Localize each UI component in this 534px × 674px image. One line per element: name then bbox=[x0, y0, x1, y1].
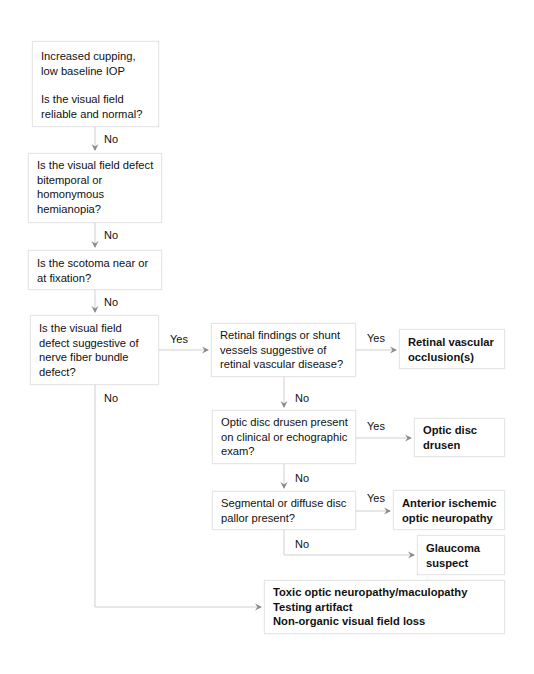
out-aion-line-1: Anterior ischemic bbox=[402, 496, 496, 511]
start-question-line-1: Is the visual field bbox=[41, 92, 150, 107]
q-hemianopia-line-1: Is the visual field defect bbox=[37, 158, 153, 173]
node-out-retinal-occlusion: Retinal vascular occlusion(s) bbox=[399, 329, 505, 369]
node-q-hemianopia: Is the visual field defect bitemporal or… bbox=[28, 153, 162, 223]
q-drusen-line-2: on clinical or echographic bbox=[221, 430, 347, 445]
q-nerve-fiber-line-4: defect? bbox=[39, 365, 150, 380]
node-start: Increased cupping, low baseline IOP Is t… bbox=[32, 41, 159, 127]
node-q-retinal: Retinal findings or shunt vessels sugges… bbox=[211, 323, 356, 377]
edge-label-hemianopia-scotoma: No bbox=[104, 229, 118, 241]
q-drusen-line-3: exam? bbox=[221, 444, 347, 459]
edge-label-scotoma-nervefiber: No bbox=[104, 296, 118, 308]
node-out-disc-drusen: Optic disc drusen bbox=[414, 418, 505, 457]
out-other-line-2: Testing artifact bbox=[273, 600, 496, 615]
out-other-line-1: Toxic optic neuropathy/maculopathy bbox=[273, 585, 496, 600]
q-hemianopia-line-2: bitemporal or bbox=[37, 173, 153, 188]
q-retinal-line-2: vessels suggestive of bbox=[220, 343, 347, 358]
edge-label-pallor-glaucoma: No bbox=[295, 538, 309, 550]
edge-label-drusen-outdrusen: Yes bbox=[367, 420, 385, 432]
edge-label-retinal-drusen: No bbox=[295, 392, 309, 404]
node-q-drusen: Optic disc drusen present on clinical or… bbox=[212, 410, 356, 464]
q-nerve-fiber-line-1: Is the visual field bbox=[39, 321, 150, 336]
q-scotoma-line-2: at fixation? bbox=[37, 271, 153, 286]
node-q-scotoma: Is the scotoma near or at fixation? bbox=[28, 250, 162, 290]
out-aion-line-2: optic neuropathy bbox=[402, 511, 496, 526]
q-pallor-line-2: pallor present? bbox=[221, 511, 347, 526]
q-retinal-line-3: retinal vascular disease? bbox=[220, 357, 347, 372]
q-nerve-fiber-line-2: defect suggestive of bbox=[39, 336, 150, 351]
node-q-nerve-fiber: Is the visual field defect suggestive of… bbox=[30, 315, 159, 385]
edge-label-start-hemianopia: No bbox=[104, 133, 118, 145]
out-other-line-3: Non-organic visual field loss bbox=[273, 614, 496, 629]
q-scotoma-line-1: Is the scotoma near or bbox=[37, 256, 153, 271]
q-retinal-line-1: Retinal findings or shunt bbox=[220, 328, 347, 343]
out-glaucoma-line-1: Glaucoma bbox=[426, 541, 496, 556]
q-nerve-fiber-line-3: nerve fiber bundle bbox=[39, 350, 150, 365]
q-hemianopia-line-3: homonymous bbox=[37, 187, 153, 202]
edge-label-pallor-aion: Yes bbox=[367, 492, 385, 504]
q-hemianopia-line-4: hemianopia? bbox=[37, 202, 153, 217]
edge-label-nervefiber-other: No bbox=[104, 392, 118, 404]
q-pallor-line-1: Segmental or diffuse disc bbox=[221, 496, 347, 511]
node-out-glaucoma-suspect: Glaucoma suspect bbox=[417, 535, 505, 575]
out-glaucoma-line-2: suspect bbox=[426, 556, 496, 571]
start-text-line-2: low baseline IOP bbox=[41, 64, 150, 79]
out-retinal-occlusion-line-1: Retinal vascular bbox=[408, 335, 496, 350]
edge-label-drusen-pallor: No bbox=[295, 472, 309, 484]
out-retinal-occlusion-line-2: occlusion(s) bbox=[408, 350, 496, 365]
q-drusen-line-1: Optic disc drusen present bbox=[221, 415, 347, 430]
edge-label-retinal-occlusion: Yes bbox=[367, 332, 385, 344]
node-q-pallor: Segmental or diffuse disc pallor present… bbox=[212, 491, 356, 530]
start-question-line-2: reliable and normal? bbox=[41, 107, 150, 122]
node-out-aion: Anterior ischemic optic neuropathy bbox=[393, 490, 505, 530]
out-disc-drusen-line-2: drusen bbox=[423, 438, 496, 453]
out-disc-drusen-line-1: Optic disc bbox=[423, 423, 496, 438]
node-out-other: Toxic optic neuropathy/maculopathy Testi… bbox=[264, 580, 505, 634]
start-text-line-1: Increased cupping, bbox=[41, 49, 150, 64]
edge-label-nervefiber-retinal: Yes bbox=[170, 333, 188, 345]
